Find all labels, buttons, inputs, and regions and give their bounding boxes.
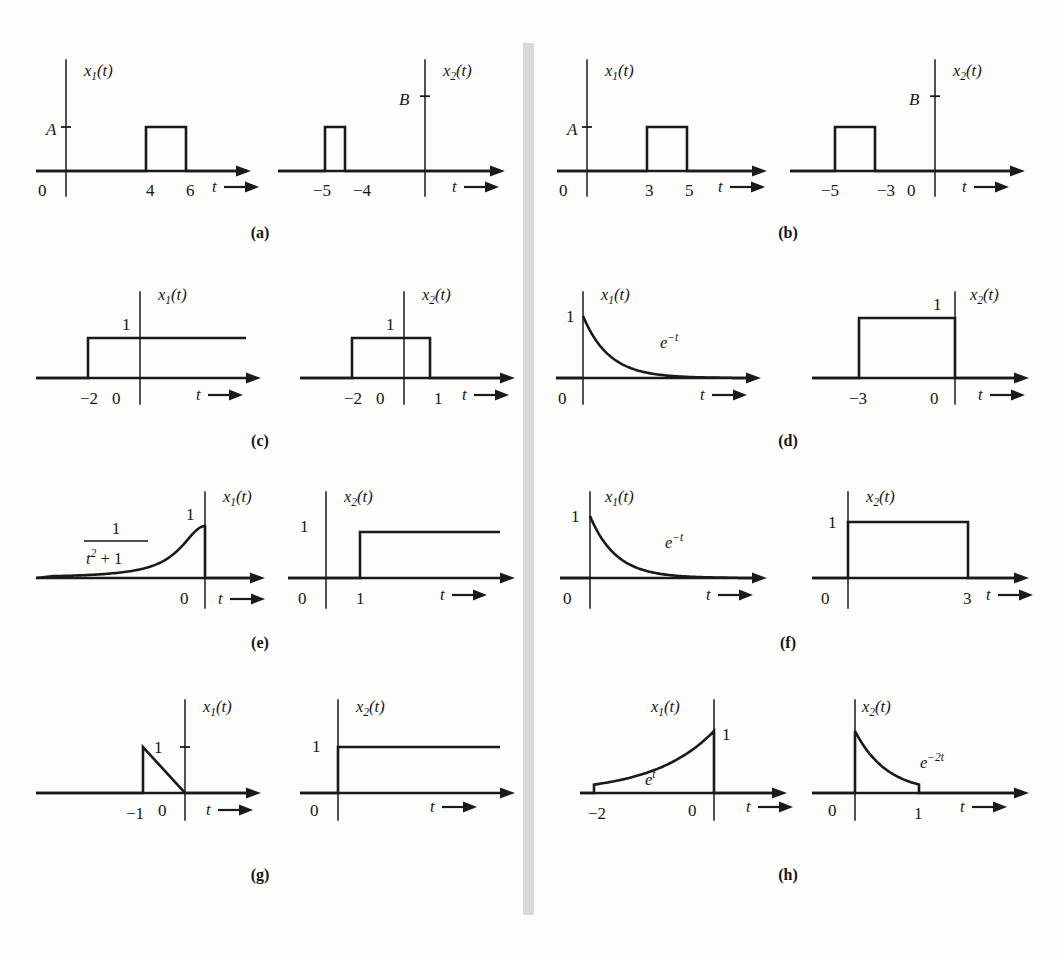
- x-tick-label-0: −2: [588, 804, 606, 823]
- signal-label-x1: x1(t): [222, 487, 252, 508]
- t-axis-label: t: [960, 797, 965, 816]
- y-value-label: 1: [722, 725, 731, 744]
- t-axis-label: t: [962, 177, 967, 196]
- signal-label-x1: x1(t): [83, 61, 113, 82]
- panel-caption-f: (f): [780, 634, 796, 652]
- origin-label: 0: [298, 589, 307, 608]
- signal-label-x1: x1(t): [157, 285, 187, 306]
- panel-caption-h: (h): [778, 866, 798, 884]
- x-tick-label-0: 1: [356, 589, 365, 608]
- x-tick-label-1: −4: [353, 181, 372, 200]
- signal-plots-figure: x1(t)A046tx2(t)B−5−4t(a)x1(t)A035tx2(t)B…: [0, 0, 1063, 957]
- t-axis-label: t: [978, 385, 983, 404]
- t-axis-label: t: [430, 797, 435, 816]
- x-tick-label-1: 6: [186, 181, 195, 200]
- origin-label: 0: [310, 801, 319, 820]
- signal-label-x2: x2(t): [343, 487, 373, 508]
- origin-label: 0: [828, 801, 837, 820]
- panel-caption-d: (d): [778, 432, 798, 450]
- signal-label-x2: x2(t): [969, 285, 999, 306]
- figure-container: x1(t)A046tx2(t)B−5−4t(a)x1(t)A035tx2(t)B…: [0, 0, 1063, 957]
- origin-label: 0: [821, 589, 830, 608]
- y-value-label: 1: [300, 517, 309, 536]
- t-axis-label: t: [218, 589, 223, 608]
- y-value-label: 1: [566, 307, 575, 326]
- y-value-label: 1: [154, 738, 163, 757]
- origin-label: 0: [563, 589, 572, 608]
- t-axis-label: t: [196, 385, 201, 404]
- y-value-label: B: [399, 90, 410, 109]
- column-divider: [523, 43, 534, 915]
- x-tick-label-1: 1: [434, 389, 443, 408]
- y-value-label: B: [909, 90, 920, 109]
- origin-label: 0: [688, 801, 697, 820]
- signal-label-x1: x1(t): [650, 697, 680, 718]
- signal-label-x2: x2(t): [952, 61, 982, 82]
- origin-label: 0: [558, 389, 567, 408]
- y-value-label: 1: [828, 513, 837, 532]
- x-tick-label-0: −5: [313, 181, 331, 200]
- y-value-label: 1: [186, 505, 195, 524]
- y-value-label: 1: [386, 315, 395, 334]
- t-axis-label: t: [706, 585, 711, 604]
- signal-label-x1: x1(t): [604, 487, 634, 508]
- signal-label-x2: x2(t): [861, 697, 891, 718]
- origin-label: 0: [376, 389, 385, 408]
- panel-caption-g: (g): [251, 866, 270, 884]
- signal-label-x2: x2(t): [442, 61, 472, 82]
- y-value-label: A: [45, 120, 57, 139]
- x-tick-label-0: −1: [126, 804, 144, 823]
- signal-label-x1: x1(t): [202, 697, 232, 718]
- origin-label: 0: [38, 181, 47, 200]
- origin-label: 0: [180, 589, 189, 608]
- x-tick-label-0: −3: [849, 389, 867, 408]
- x-tick-label-0: 4: [146, 181, 155, 200]
- x-tick-label-0: −5: [821, 181, 839, 200]
- curve-fraction-numerator: 1: [112, 519, 121, 538]
- panel-caption-c: (c): [251, 432, 269, 450]
- x-tick-label-0: −2: [344, 389, 362, 408]
- y-value-label: 1: [933, 295, 942, 314]
- signal-label-x1: x1(t): [604, 61, 634, 82]
- t-axis-label: t: [462, 385, 467, 404]
- t-axis-label: t: [212, 177, 217, 196]
- origin-label: 0: [930, 389, 939, 408]
- t-axis-label: t: [986, 585, 991, 604]
- origin-label: 0: [158, 801, 167, 820]
- t-axis-label: t: [718, 177, 723, 196]
- signal-label-x2: x2(t): [865, 487, 895, 508]
- x-tick-label-1: −3: [877, 181, 895, 200]
- t-axis-label: t: [452, 177, 457, 196]
- x-tick-label-0: 3: [645, 181, 654, 200]
- x-tick-label-0: 1: [914, 804, 923, 823]
- t-axis-label: t: [700, 385, 705, 404]
- y-value-label: A: [566, 120, 578, 139]
- t-axis-label: t: [746, 797, 751, 816]
- y-value-label: 1: [571, 507, 580, 526]
- panel-caption-e: (e): [251, 634, 269, 652]
- t-axis-label: t: [440, 585, 445, 604]
- signal-label-x1: x1(t): [600, 285, 630, 306]
- origin-label: 0: [112, 389, 121, 408]
- origin-label: 0: [559, 181, 568, 200]
- panel-caption-b: (b): [778, 224, 798, 242]
- x-tick-label-0: 3: [963, 589, 972, 608]
- y-value-label: 1: [312, 737, 321, 756]
- x-tick-label-1: 5: [685, 181, 694, 200]
- signal-label-x2: x2(t): [355, 697, 385, 718]
- origin-label: 0: [907, 181, 916, 200]
- x-tick-label-0: −2: [80, 389, 98, 408]
- signal-label-x2: x2(t): [421, 285, 451, 306]
- t-axis-label: t: [206, 800, 211, 819]
- y-value-label: 1: [122, 315, 131, 334]
- panel-caption-a: (a): [251, 224, 270, 242]
